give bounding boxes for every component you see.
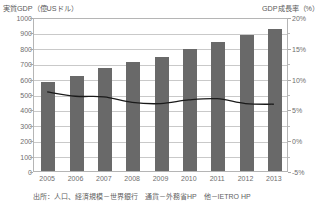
- y2-axis-tick-mark: [288, 80, 291, 81]
- x-axis-tick-label: 2010: [174, 175, 204, 182]
- y2-axis-tick-label: 5%: [292, 107, 322, 114]
- y-axis-tick-mark: [30, 33, 33, 34]
- y-axis-tick-label: 1000: [4, 15, 32, 22]
- y2-axis-minor-tick: [288, 64, 290, 65]
- y2-axis-minor-tick: [288, 157, 290, 158]
- y-axis-tick-mark: [30, 172, 33, 173]
- y-axis-tick-mark: [30, 80, 33, 81]
- x-axis-tick-label: 2009: [146, 175, 176, 182]
- growth-rate-line: [33, 18, 288, 172]
- y-axis-tick-label: 500: [4, 92, 32, 99]
- y-axis-tick-label: 200: [4, 138, 32, 145]
- y-axis-tick-mark: [30, 49, 33, 50]
- x-axis-tick-label: 2008: [117, 175, 147, 182]
- y-axis-tick-mark: [30, 157, 33, 158]
- y2-axis-tick-mark: [288, 49, 291, 50]
- y2-axis-tick-mark: [288, 141, 291, 142]
- y-axis-tick-mark: [30, 18, 33, 19]
- x-axis-tick-label: 2007: [89, 175, 119, 182]
- y2-axis-tick-mark: [288, 110, 291, 111]
- y2-axis-tick-mark: [288, 18, 291, 19]
- y2-axis-tick-label: 15%: [292, 45, 322, 52]
- y2-axis-tick-label: 0%: [292, 138, 322, 145]
- y-axis-tick-mark: [30, 141, 33, 142]
- y2-axis-tick-label: 20%: [292, 15, 322, 22]
- source-footnote: 出所：人口、経済規模－世界銀行 通貨－外務省HP 他－IETRO HP: [33, 191, 251, 201]
- x-axis-tick-label: 2012: [231, 175, 261, 182]
- y-axis-tick-label: 800: [4, 45, 32, 52]
- y-axis-tick-label: 100: [4, 153, 32, 160]
- y-axis-tick-label: 400: [4, 107, 32, 114]
- y-axis-tick-label: 700: [4, 61, 32, 68]
- y-axis-tick-mark: [30, 110, 33, 111]
- y2-axis-minor-tick: [288, 33, 290, 34]
- growth-rate-line-path: [47, 92, 274, 104]
- y-axis-tick-label: 300: [4, 122, 32, 129]
- x-axis-tick-label: 2013: [259, 175, 289, 182]
- y-axis-tick-mark: [30, 126, 33, 127]
- gdp-chart-figure: 実質GDP（億USドル） GDP成長率（%） 出所：人口、経済規模－世界銀行 通…: [0, 0, 323, 210]
- y2-axis-minor-tick: [288, 126, 290, 127]
- x-axis-tick-label: 2005: [32, 175, 62, 182]
- right-axis-title: GDP成長率（%）: [262, 3, 319, 13]
- left-axis-title: 実質GDP（億USドル）: [3, 3, 78, 13]
- x-axis-tick-label: 2011: [202, 175, 232, 182]
- y2-axis-tick-mark: [288, 172, 291, 173]
- y2-axis-minor-tick: [288, 95, 290, 96]
- y-axis-tick-label: 900: [4, 30, 32, 37]
- y-axis-tick-mark: [30, 64, 33, 65]
- y-axis-tick-mark: [30, 95, 33, 96]
- y-axis-tick-label: 0: [4, 169, 32, 176]
- y2-axis-tick-label: 10%: [292, 76, 322, 83]
- x-axis-tick-label: 2006: [61, 175, 91, 182]
- y-axis-tick-label: 600: [4, 76, 32, 83]
- y2-axis-tick-label: -5%: [292, 169, 322, 176]
